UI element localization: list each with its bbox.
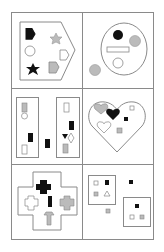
gray-circle-outside-icon [90,65,101,76]
upper-square-container [89,176,116,205]
white-circle-icon [25,46,35,56]
gray-rect-icon [63,144,68,153]
cell-5 [18,172,77,230]
black-square-icon [135,204,139,208]
black-rect-icon [28,133,33,142]
black-cross-icon [36,180,51,194]
gray-arrow-icon [44,212,54,225]
gray-heart-icon [94,104,108,114]
gray-cross-icon [60,196,74,210]
black-heart-icon [106,109,120,120]
black-rect-icon [69,121,74,130]
left-rect-container [17,98,39,158]
gray-rect-icon [22,103,27,112]
gray-square-outside-icon [106,209,110,213]
black-circle-icon [113,30,123,40]
cell-1 [20,22,75,80]
white-square-icon [130,215,134,219]
gray-circle-icon [130,36,141,47]
white-cross-icon [25,196,38,210]
white-circle-icon [113,58,123,68]
black-heart-icon [62,134,68,139]
gray-pentagon-icon [49,62,59,73]
black-rect-icon [48,196,52,207]
gray-square-icon [140,215,144,219]
cell-4 [89,102,146,152]
white-square-icon [130,106,134,110]
gray-square-icon [94,192,98,196]
cell-2 [90,23,148,76]
white-pentagon-icon [60,50,69,60]
black-square-outside-icon [129,180,133,184]
white-rect-icon [64,103,69,112]
white-triangle-icon [104,191,110,196]
black-square-icon [124,117,128,121]
white-circle-icon [22,113,28,119]
black-rect-outside-icon [45,139,50,148]
lower-square-container [124,198,151,227]
white-square-icon [94,181,98,185]
gray-square-icon [117,128,122,133]
shape-puzzle-diagram [0,0,164,252]
white-diamond-icon [68,133,74,143]
white-rectangle-icon [107,47,129,52]
white-rect-icon [22,145,27,154]
gray-star-icon [50,33,62,44]
cell-3 [17,98,80,158]
black-square-icon [105,180,109,185]
black-pentagon-icon [26,29,35,39]
white-heart-icon [97,122,111,133]
cell-6 [89,176,151,227]
black-star-icon [26,63,40,75]
